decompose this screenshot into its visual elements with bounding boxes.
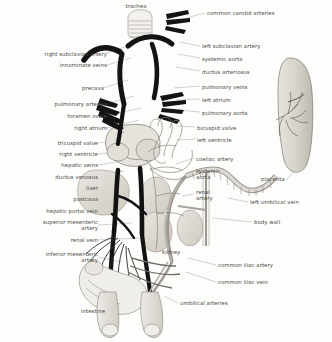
- kidney-right: [177, 210, 203, 246]
- label-right-atrium: right atrium: [0, 125, 107, 131]
- label-coeliac-artery: coeliac artery: [196, 156, 324, 162]
- label-pulmonary-veins: pulmonary veins: [202, 84, 330, 90]
- label-right-subclavian-artery: right subclavian artery: [0, 51, 107, 57]
- label-left-umbilical-vein: left umbilical vein: [250, 199, 332, 205]
- fetal-circulation-figure: trachea right subclavian artery innomina…: [0, 0, 332, 342]
- label-hepatic-portal-vein: hepatic portal vein: [0, 208, 98, 214]
- label-ductus-venosus: ductus venosus: [0, 174, 98, 180]
- label-common-iliac-artery: common iliac artery: [218, 262, 328, 268]
- label-umbilical-arteries: umbilical arteries: [180, 300, 290, 306]
- label-placenta: placenta: [261, 176, 321, 182]
- label-postcava: postcava: [0, 196, 98, 202]
- label-kidney: kidney: [162, 249, 202, 255]
- label-body-wall: body wall: [254, 219, 326, 225]
- label-right-ventricle: right ventricle: [0, 151, 98, 157]
- label-left-atrium: left atrium: [202, 97, 330, 103]
- label-innominate-veins: innominate veins: [0, 62, 107, 68]
- label-renal-vein: renal vein: [0, 237, 98, 243]
- label-pulmonary-arteries: pulmonary arteries: [0, 101, 107, 107]
- label-precava: precava: [0, 85, 104, 91]
- label-trachea: trachea: [120, 3, 152, 9]
- heart-organ: [106, 124, 160, 166]
- label-inferior-mesenteric-artery: inferior mesenteric artery: [0, 251, 98, 263]
- label-tricuspid-valve: tricuspid valve: [0, 140, 98, 146]
- label-left-ventricle: left ventricle: [197, 137, 325, 143]
- label-superior-mesenteric-artery: superior mesenteric artery: [0, 219, 98, 231]
- label-bicuspid-valve: bicuspid valve: [197, 125, 325, 131]
- label-pulmonary-aorta: pulmonary aorta: [202, 110, 330, 116]
- label-systemic-aorta-lower: systemic aorta: [196, 168, 236, 180]
- label-hepatic-veins: hepatic veins: [0, 162, 98, 168]
- label-renal-artery: renal artery: [196, 189, 236, 201]
- label-liver: liver: [0, 185, 98, 191]
- label-ductus-arteriosus: ductus arteriosus: [202, 69, 330, 75]
- label-common-carotid-arteries: common carotid arteries: [207, 10, 329, 16]
- label-systemic-aorta: systemic aorta: [202, 56, 330, 62]
- label-foramen-ovale: foramen ovale: [0, 113, 107, 119]
- label-common-iliac-vein: common iliac vein: [218, 279, 328, 285]
- label-intestine: intestine: [0, 308, 105, 314]
- label-left-subclavian-artery: left subclavian artery: [202, 43, 330, 49]
